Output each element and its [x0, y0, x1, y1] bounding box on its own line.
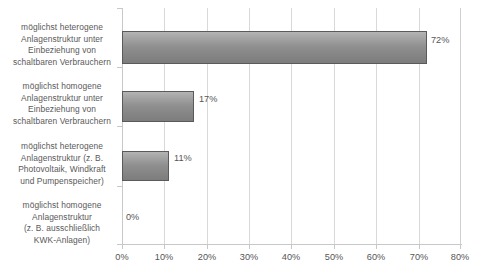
x-axis-label-0: 0%	[102, 252, 142, 263]
category-label-line: Photovoltaik, Windkraft	[4, 164, 120, 176]
x-axis-tick	[291, 245, 292, 249]
x-axis-tick	[207, 245, 208, 249]
category-label-line: Anlagenstruktur unter	[4, 93, 120, 105]
value-label-1: 72%	[431, 35, 449, 45]
category-label-line: Anlagenstruktur (z. B.	[4, 153, 120, 165]
category-label-line: Anlagenstruktur unter	[4, 34, 120, 46]
value-label-4: 0%	[126, 212, 139, 222]
bar-3[interactable]	[122, 151, 169, 181]
x-axis-label-30: 30%	[229, 252, 269, 263]
category-label-line: (z. B. ausschließlich	[4, 223, 120, 235]
gridline-80	[460, 8, 461, 245]
x-axis-tick	[164, 245, 165, 249]
x-axis-label-70: 70%	[399, 252, 439, 263]
category-label-line: möglichst heterogene	[4, 22, 120, 34]
category-label-2: möglichst homogene Anlagenstruktur unter…	[4, 81, 120, 127]
bar-chart: möglichst heterogene Anlagenstruktur unt…	[0, 0, 480, 280]
category-label-line: KWK-Anlagen)	[4, 235, 120, 247]
category-label-line: schaltbaren Verbrauchern	[4, 57, 120, 69]
category-label-line: Anlagenstruktur	[4, 212, 120, 224]
category-label-3: möglichst heterogene Anlagenstruktur (z.…	[4, 141, 120, 187]
x-axis-tick	[460, 245, 461, 249]
category-label-line: möglichst homogene	[4, 200, 120, 212]
x-axis-label-60: 60%	[356, 252, 396, 263]
x-axis-tick	[334, 245, 335, 249]
bar-2[interactable]	[122, 91, 194, 122]
category-label-line: möglichst homogene	[4, 81, 120, 93]
x-axis-label-80: 80%	[440, 252, 480, 263]
category-label-line: Einbeziehung von	[4, 45, 120, 57]
category-label-line: möglichst heterogene	[4, 141, 120, 153]
bar-1[interactable]	[122, 31, 427, 64]
category-label-1: möglichst heterogene Anlagenstruktur unt…	[4, 22, 120, 68]
x-axis-tick	[419, 245, 420, 249]
category-label-4: möglichst homogene Anlagenstruktur (z. B…	[4, 200, 120, 246]
category-label-line: und Pumpenspeicher)	[4, 176, 120, 188]
category-label-line: schaltbaren Verbrauchern	[4, 116, 120, 128]
x-axis-tick	[122, 245, 123, 249]
plot-area	[122, 8, 461, 245]
x-axis-line	[122, 244, 462, 245]
value-label-3: 11%	[174, 153, 192, 163]
x-axis-label-20: 20%	[187, 252, 227, 263]
x-axis-tick	[376, 245, 377, 249]
x-axis-label-50: 50%	[314, 252, 354, 263]
category-label-line: Einbeziehung von	[4, 104, 120, 116]
x-axis-tick	[249, 245, 250, 249]
x-axis-label-10: 10%	[144, 252, 184, 263]
value-label-2: 17%	[199, 94, 217, 104]
x-axis-label-40: 40%	[271, 252, 311, 263]
